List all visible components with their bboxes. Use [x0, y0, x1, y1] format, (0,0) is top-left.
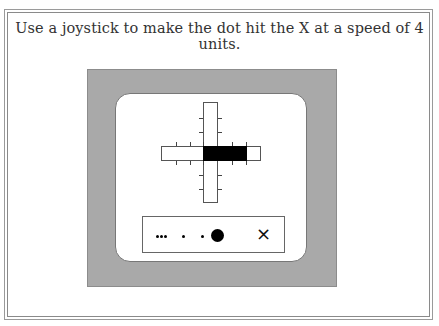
tick — [190, 161, 191, 165]
instruction-text: Use a joystick to make the dot hit the X… — [0, 20, 439, 52]
joystick-fill-right — [203, 146, 247, 161]
tick — [218, 132, 222, 133]
tick — [199, 175, 203, 176]
tick — [218, 175, 222, 176]
tick — [232, 161, 233, 165]
tick — [176, 161, 177, 165]
tick — [199, 132, 203, 133]
trail-dot — [160, 235, 163, 238]
trail-dot — [164, 235, 167, 238]
trail-dot — [182, 235, 185, 238]
tick — [203, 161, 204, 165]
trail-dot — [156, 235, 159, 238]
tick — [232, 142, 233, 146]
target-x-icon: × — [256, 224, 271, 244]
tick — [218, 189, 222, 190]
tick — [199, 118, 203, 119]
tick — [190, 142, 191, 146]
tick — [176, 142, 177, 146]
tick — [246, 161, 247, 165]
tick — [199, 189, 203, 190]
tick — [203, 142, 204, 146]
tick — [218, 118, 222, 119]
player-dot — [211, 229, 224, 242]
tick — [246, 142, 247, 146]
trail-dot — [201, 235, 204, 238]
